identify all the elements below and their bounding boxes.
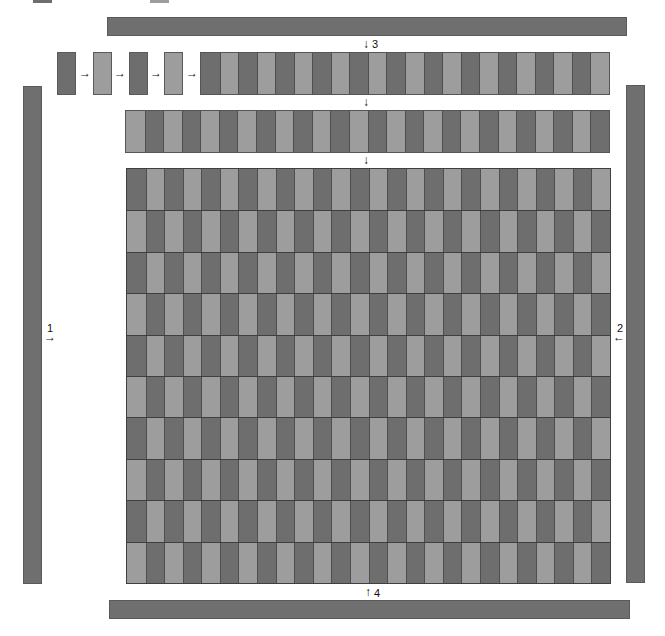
stripe-cell	[350, 294, 370, 335]
bottom-bar	[109, 600, 630, 619]
stripe-cell	[443, 501, 463, 542]
stripe-cell	[294, 377, 314, 418]
stripe-cell	[443, 543, 463, 584]
stripe-cell	[276, 253, 296, 294]
grid-row	[127, 417, 610, 459]
stripe-cell	[182, 111, 202, 152]
stripe-cell	[127, 253, 147, 294]
stripe-cell	[443, 460, 463, 501]
stripe-cell	[256, 111, 276, 152]
stripe-cell	[183, 501, 203, 542]
stripe-cell	[127, 460, 147, 501]
stripe-cell	[536, 336, 556, 377]
stripe-cell	[313, 418, 333, 459]
stripe-cell	[369, 501, 389, 542]
stripe-cell	[146, 418, 166, 459]
stripe-cell	[237, 111, 257, 152]
stripe-cell	[294, 53, 314, 94]
stripe-cell	[350, 253, 370, 294]
stripe-cell	[294, 336, 314, 377]
stripe-cell	[573, 211, 593, 252]
stripe-cell	[183, 294, 203, 335]
stripe-cell	[220, 336, 240, 377]
stripe-cell	[276, 169, 296, 211]
stripe-cell	[220, 418, 240, 459]
stripe-cell	[443, 418, 463, 459]
stripe-cell	[183, 336, 203, 377]
grid-row	[127, 542, 610, 584]
arrow-down-icon: ↓	[363, 96, 369, 108]
stripe-cell	[424, 543, 444, 584]
stripe-cell	[554, 211, 574, 252]
stripe-cell	[331, 294, 351, 335]
stripe-cell	[499, 169, 519, 211]
grid-row	[127, 210, 610, 252]
stripe-cell	[330, 111, 350, 152]
stripe-cell	[406, 253, 426, 294]
stripe-cell	[275, 111, 295, 152]
arrow-right-icon: →	[150, 67, 162, 79]
stripe-cell	[294, 169, 314, 211]
stripe-cell	[369, 460, 389, 501]
stripe-cell	[387, 377, 407, 418]
stripe-cell	[164, 336, 184, 377]
stripe-cell	[294, 211, 314, 252]
stripe-cell	[517, 460, 537, 501]
stripe-cell	[387, 169, 407, 211]
stripe-cell	[313, 501, 333, 542]
stripe-cell	[257, 53, 277, 94]
stripe-cell	[164, 377, 184, 418]
strip-row-2	[125, 110, 610, 153]
stripe-cell	[554, 169, 574, 211]
stripe-cell	[424, 336, 444, 377]
stripe-cell	[331, 418, 351, 459]
stripe-cell	[276, 543, 296, 584]
stripe-cell	[146, 377, 166, 418]
stripe-cell	[257, 336, 277, 377]
stripe-cell	[480, 460, 500, 501]
stripe-cell	[591, 211, 610, 252]
stripe-cell	[313, 377, 333, 418]
stripe-cell	[387, 543, 407, 584]
stripe-cell	[591, 294, 610, 335]
stripe-cell	[313, 211, 333, 252]
stripe-cell	[499, 253, 519, 294]
stripe-cell	[257, 253, 277, 294]
stripe-cell	[424, 253, 444, 294]
stripe-cell	[220, 543, 240, 584]
stripe-cell	[201, 377, 221, 418]
stripe-cell	[535, 111, 555, 152]
stripe-cell	[257, 418, 277, 459]
stripe-cell	[406, 501, 426, 542]
stripe-cell	[369, 253, 389, 294]
stripe-cell	[573, 418, 593, 459]
stripe-cell	[313, 253, 333, 294]
stripe-cell	[480, 169, 500, 211]
stripe-cell	[480, 418, 500, 459]
stripe-cell	[164, 169, 184, 211]
stripe-cell	[238, 460, 258, 501]
stripe-cell	[554, 418, 574, 459]
stripe-cell	[238, 336, 258, 377]
grid-row	[127, 459, 610, 501]
stripe-cell	[201, 253, 221, 294]
stripe-cell	[517, 211, 537, 252]
stripe-cell	[238, 211, 258, 252]
stripe-cell	[369, 336, 389, 377]
stripe-cell	[387, 253, 407, 294]
stripe-cell	[127, 501, 147, 542]
stripe-cell	[238, 294, 258, 335]
sequence-box-4	[164, 52, 183, 95]
stripe-cell	[349, 53, 369, 94]
stripe-cell	[590, 111, 610, 152]
stripe-cell	[516, 53, 536, 94]
stripe-cell	[331, 169, 351, 211]
stripe-cell	[238, 501, 258, 542]
stripe-cell	[350, 418, 370, 459]
stripe-cell	[573, 460, 593, 501]
stripe-cell	[220, 377, 240, 418]
stripe-cell	[424, 501, 444, 542]
stripe-cell	[146, 294, 166, 335]
stripe-cell	[387, 294, 407, 335]
stripe-cell	[423, 111, 443, 152]
